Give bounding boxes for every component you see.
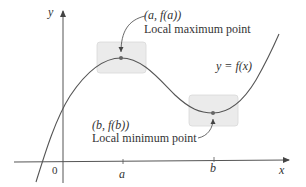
maximum-coord-label: (a, f(a))	[144, 8, 181, 22]
local-extrema-diagram: y x 0 a b y = f(x) (a, f(a)) Local maxim…	[0, 0, 306, 187]
minimum-coord-label: (b, f(b))	[92, 118, 129, 132]
maximum-point	[119, 56, 123, 60]
origin-label: 0	[52, 164, 58, 176]
function-curve	[36, 34, 279, 182]
maximum-description: Local maximum point	[144, 22, 251, 36]
y-axis-label: y	[47, 5, 54, 19]
tick-a-label: a	[119, 167, 125, 181]
minimum-point	[211, 111, 215, 115]
x-axis	[14, 160, 289, 162]
x-axis-label: x	[278, 163, 285, 177]
curve-label: y = f(x)	[215, 59, 252, 73]
minimum-description: Local minimum point	[92, 131, 197, 145]
tick-b-label: b	[210, 161, 216, 175]
